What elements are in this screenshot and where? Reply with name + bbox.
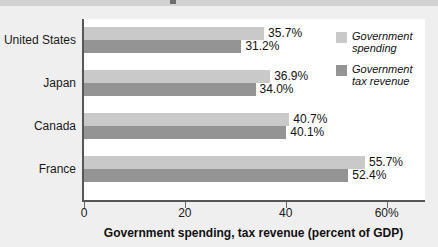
bar-value-label: 40.1% — [290, 125, 324, 139]
bar-spending — [84, 70, 270, 83]
x-tick-label: 20 — [178, 206, 191, 220]
cropped-title-fragment — [170, 0, 176, 4]
bar-value-label: 40.7% — [293, 112, 327, 126]
legend-label-tax-line1: Government — [352, 63, 431, 75]
bar-tax — [84, 126, 286, 139]
bar-value-label: 34.0% — [260, 82, 294, 96]
bar-spending — [84, 113, 289, 126]
legend-label-spending-line1: Government — [352, 30, 431, 42]
bar-value-label: 52.4% — [352, 168, 386, 182]
x-tick-label: 0 — [81, 206, 88, 220]
bar-value-label: 55.7% — [369, 155, 403, 169]
legend-label-spending-line2: spending — [352, 42, 431, 54]
title-band — [0, 0, 438, 6]
bar-spending — [84, 156, 365, 169]
legend-item-government-spending: Government spending — [336, 30, 431, 54]
chart-figure: 0204060% 35.7%31.2%36.9%34.0%40.7%40.1%5… — [0, 0, 438, 247]
category-label: Japan — [43, 76, 76, 90]
category-label: United States — [4, 33, 76, 47]
x-axis-title: Government spending, tax revenue (percen… — [82, 226, 425, 240]
bar-tax — [84, 83, 256, 96]
legend-swatch-tax-icon — [336, 65, 347, 76]
bar-value-label: 31.2% — [245, 39, 279, 53]
bar-tax — [84, 40, 241, 53]
legend-item-government-tax-revenue: Government tax revenue — [336, 63, 431, 87]
category-label: France — [39, 162, 76, 176]
x-tick-label: 60% — [375, 206, 399, 220]
bar-value-label: 36.9% — [274, 69, 308, 83]
bar-spending — [84, 27, 264, 40]
category-label: Canada — [34, 119, 76, 133]
x-tick-label: 40 — [279, 206, 292, 220]
legend-label-tax-line2: tax revenue — [352, 75, 431, 87]
legend-swatch-spending-icon — [336, 32, 347, 43]
x-axis-line — [82, 200, 425, 202]
bar-tax — [84, 169, 348, 182]
bar-value-label: 35.7% — [268, 26, 302, 40]
chart-legend: Government spending Government tax reven… — [336, 30, 431, 96]
